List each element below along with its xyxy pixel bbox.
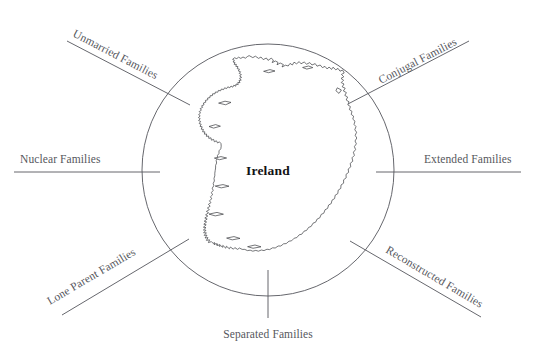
spoke-line-reconstructed-families xyxy=(350,241,481,317)
family-types-diagram: Ireland Unmarried Families Conjugal Fami… xyxy=(0,0,535,354)
center-label-ireland: Ireland xyxy=(246,163,290,178)
spoke-label-separated-families: Separated Families xyxy=(223,328,313,341)
spoke-line-unmarried-families xyxy=(67,41,190,105)
spoke-label-nuclear-families: Nuclear Families xyxy=(20,153,101,165)
spoke-label-reconstructed-families: Reconstructed Families xyxy=(384,243,486,310)
spoke-label-unmarried-families: Unmarried Families xyxy=(71,27,160,81)
spoke-label-conjugal-families: Conjugal Families xyxy=(376,35,459,87)
diagram-canvas: Ireland Unmarried Families Conjugal Fami… xyxy=(0,0,535,354)
spoke-line-conjugal-families xyxy=(346,41,469,105)
ireland-map-outline-icon xyxy=(198,56,356,251)
spoke-label-extended-families: Extended Families xyxy=(424,153,512,165)
